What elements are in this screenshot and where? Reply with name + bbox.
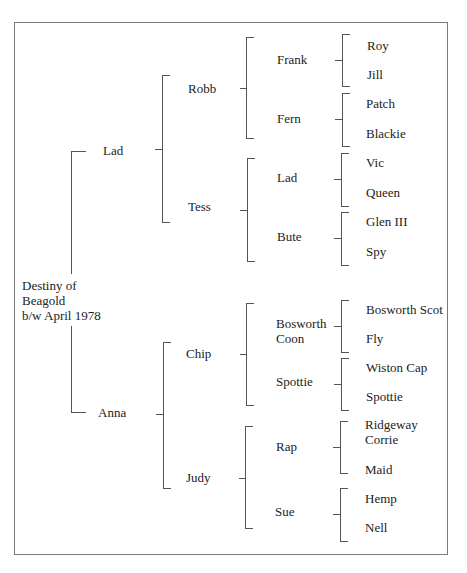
spottie-gen4-name: Spottie (366, 389, 403, 404)
judy-bracket-bottom (245, 528, 253, 529)
rap-bracket (340, 421, 341, 473)
bute-bracket (341, 212, 342, 265)
fern-bracket-bottom (342, 146, 350, 147)
tess-bracket-top (247, 158, 255, 159)
tess-tick (240, 210, 247, 211)
hemp-name: Hemp (365, 491, 397, 506)
fly-name: Fly (366, 331, 383, 346)
judy-bracket (245, 426, 246, 528)
roy-name: Roy (367, 38, 389, 53)
gen1-bracket-bottom (71, 412, 86, 413)
gen1-bracket-lower (71, 326, 72, 413)
tess-name: Tess (188, 199, 211, 214)
ridgeway-corrie-line1: Ridgeway (365, 417, 418, 432)
robb-bracket-bottom (246, 138, 254, 139)
wiston-cap-name: Wiston Cap (366, 360, 427, 375)
vic-name: Vic (366, 155, 384, 170)
lad-gen3-bracket (341, 153, 342, 206)
subject-birth-info: b/w April 1978 (22, 308, 101, 323)
spottie-bracket (341, 358, 342, 410)
chip-bracket-top (246, 303, 254, 304)
chip-bracket (246, 303, 247, 405)
lad-gen3-bracket-bottom (341, 206, 349, 207)
maid-name: Maid (365, 462, 392, 477)
bosworth-coon-bracket-bottom (341, 352, 349, 353)
anna-bracket (163, 342, 164, 488)
tess-bracket-bottom (247, 261, 255, 262)
frank-bracket (342, 34, 343, 86)
rap-bracket-top (340, 421, 348, 422)
bute-name: Bute (277, 229, 302, 244)
bosworth-coon-bracket-top (341, 300, 349, 301)
anna-bracket-bottom (163, 488, 171, 489)
nell-name: Nell (365, 520, 387, 535)
gen1-bracket-upper (71, 151, 72, 274)
frank-bracket-bottom (342, 86, 350, 87)
frank-bracket-top (342, 34, 350, 35)
bute-bracket-top (341, 212, 349, 213)
tess-bracket (247, 158, 248, 261)
fern-name: Fern (277, 111, 301, 126)
sue-bracket (340, 488, 341, 541)
frank-name: Frank (277, 52, 307, 67)
lad-gen3-bracket-top (341, 153, 349, 154)
bute-bracket-bottom (341, 265, 349, 266)
blackie-name: Blackie (366, 126, 406, 141)
sue-bracket-bottom (340, 541, 348, 542)
sire-name: Lad (103, 143, 123, 158)
bosworth-coon-bracket (341, 300, 342, 352)
patch-name: Patch (366, 96, 395, 111)
anna-bracket-top (163, 342, 171, 343)
subject-name-line2: Beagold (22, 293, 65, 308)
rap-name: Rap (276, 439, 297, 454)
bosworth-coon-line1: Bosworth (276, 316, 327, 331)
lad-bracket-bottom (162, 222, 170, 223)
rap-bracket-bottom (340, 473, 348, 474)
subject-name-line1: Destiny of (22, 278, 77, 293)
chip-name: Chip (186, 346, 211, 361)
ridgeway-corrie-line2: Corrie (365, 432, 398, 447)
spy-name: Spy (366, 244, 386, 259)
spottie-bracket-bottom (341, 410, 349, 411)
dam-name: Anna (98, 405, 126, 420)
queen-name: Queen (366, 185, 400, 200)
sue-name: Sue (275, 504, 295, 519)
jill-name: Jill (367, 67, 383, 82)
robb-bracket (246, 37, 247, 138)
fern-bracket-top (342, 93, 350, 94)
sue-bracket-top (340, 488, 348, 489)
gen1-bracket-top (71, 151, 86, 152)
chip-bracket-bottom (246, 405, 254, 406)
robb-name: Robb (188, 81, 216, 96)
bosworth-scot-name: Bosworth Scot (366, 302, 443, 317)
judy-bracket-top (245, 426, 253, 427)
fern-bracket (342, 93, 343, 146)
spottie-bracket-top (341, 358, 349, 359)
glen-iii-name: Glen III (366, 214, 408, 229)
lad-gen3-name: Lad (277, 170, 297, 185)
robb-bracket-top (246, 37, 254, 38)
judy-name: Judy (186, 470, 211, 485)
spottie-gen3-name: Spottie (276, 374, 313, 389)
lad-bracket-top (162, 75, 170, 76)
lad-bracket (162, 75, 163, 222)
bosworth-coon-line2: Coon (276, 331, 304, 346)
